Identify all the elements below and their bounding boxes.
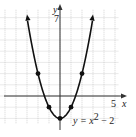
parabola-chart: y 7 x 5 y = x2 − 2 [0,0,136,137]
data-point [69,105,74,110]
x-tick-label: 5 [111,98,116,109]
data-point [47,105,52,110]
data-point [80,71,85,76]
y-tick-label: 7 [54,13,59,24]
grid-lines [0,10,118,124]
data-point [58,116,63,121]
x-axis [4,94,127,99]
x-axis-label: x [121,98,127,109]
equation-label: y = x2 − 2 [72,111,114,126]
data-point [36,71,41,76]
